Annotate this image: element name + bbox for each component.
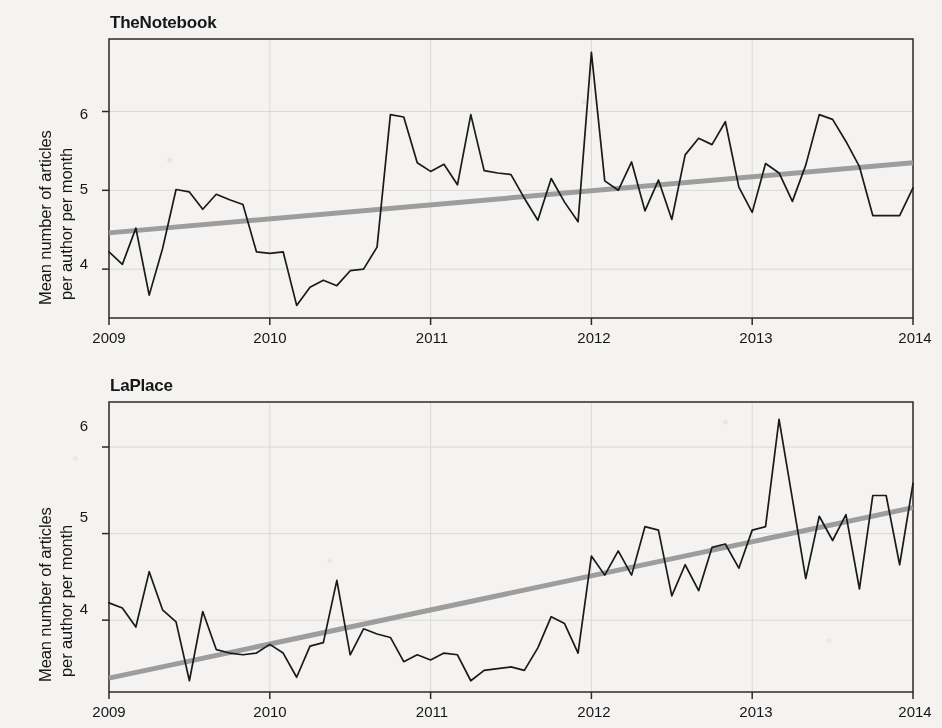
panel-laplace: LaPlace Mean number of articles per auth… [0, 364, 942, 728]
panel-thenotebook: TheNotebook Mean number of articles per … [0, 0, 942, 364]
plot-area-laplace [0, 364, 942, 728]
plot-area-thenotebook [0, 0, 942, 364]
figure-container: TheNotebook Mean number of articles per … [0, 0, 942, 728]
